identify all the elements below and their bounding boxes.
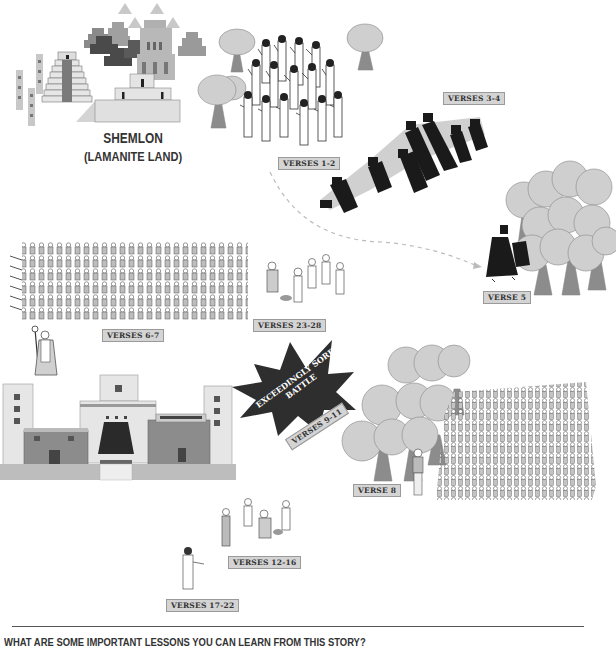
group-verses-23-28 [258,254,348,314]
shemlon-city-illustration [0,0,220,125]
label-verse-8: VERSE 8 [353,484,401,497]
label-verse-5: VERSE 5 [483,291,531,304]
label-verses-12-16: VERSES 12-16 [228,556,301,569]
location-name: SHEMLON [86,130,180,146]
figure-verses-17-22 [180,546,210,596]
location-subtitle: (LAMANITE LAND) [79,149,186,164]
reflection-question: WHAT ARE SOME IMPORTANT LESSONS YOU CAN … [4,636,366,648]
label-verses-23-28: VERSES 23-28 [253,319,326,332]
label-verses-3-4: VERSES 3-4 [443,92,505,105]
fleeing-figures-verse-5 [478,225,538,285]
group-verses-12-16 [220,488,300,538]
label-verses-6-7: VERSES 6-7 [102,329,164,342]
nephite-leader-figure [408,448,428,498]
lamanite-army-illustration [10,242,250,322]
label-verses-17-22: VERSES 17-22 [166,599,239,612]
nephite-army-crowd [436,376,596,501]
nephite-city-illustration [0,372,236,492]
divider-line [12,626,584,627]
